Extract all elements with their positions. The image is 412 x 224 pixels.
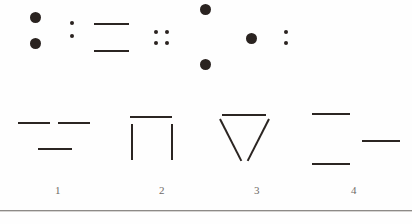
horizontal-bar	[222, 114, 266, 116]
options-row: 1 2 3 4	[0, 100, 412, 200]
small-dot	[284, 41, 288, 45]
large-dot	[246, 33, 257, 44]
option-4-art	[304, 100, 404, 172]
small-dot	[165, 41, 169, 45]
vertical-bar	[131, 124, 133, 160]
stimulus-group-two-large-dots	[20, 0, 60, 96]
stimulus-group-four-small-dots	[152, 0, 180, 96]
horizontal-bar	[94, 50, 129, 52]
horizontal-bar	[38, 148, 72, 150]
horizontal-bar	[58, 122, 90, 124]
option-3-art	[207, 100, 307, 172]
horizontal-bar	[312, 113, 350, 115]
small-dot	[154, 41, 158, 45]
stimulus-row	[0, 0, 412, 96]
vertical-bar	[171, 124, 173, 160]
horizontal-bar	[362, 140, 400, 142]
large-dot	[30, 12, 41, 23]
stimulus-group-small-dot-pair	[282, 0, 302, 96]
horizontal-bar	[94, 23, 129, 25]
diagonal-bar-left	[219, 119, 242, 162]
small-dot	[165, 30, 169, 34]
large-dot	[30, 38, 41, 49]
option-4[interactable]: 4	[304, 100, 404, 200]
option-1-art	[8, 100, 108, 172]
option-2-art	[112, 100, 212, 172]
option-2-label: 2	[112, 184, 212, 196]
stimulus-group-spaced-large-dots	[196, 0, 222, 96]
footer-divider-shadow	[0, 211, 412, 212]
stimulus-group-small-dot-pair	[62, 0, 86, 96]
option-2[interactable]: 2	[112, 100, 212, 200]
horizontal-bar	[312, 163, 350, 165]
horizontal-bar	[130, 116, 172, 118]
small-dot	[70, 21, 74, 25]
stimulus-group-two-bars	[94, 0, 134, 96]
option-1[interactable]: 1	[8, 100, 108, 200]
option-4-label: 4	[304, 184, 404, 196]
large-dot	[200, 4, 211, 15]
small-dot	[154, 30, 158, 34]
small-dot	[284, 30, 288, 34]
large-dot	[200, 59, 211, 70]
horizontal-bar	[18, 122, 50, 124]
option-3[interactable]: 3	[207, 100, 307, 200]
diagonal-bar-right	[247, 119, 270, 162]
option-1-label: 1	[8, 184, 108, 196]
figure-root: 1 2 3 4	[0, 0, 412, 224]
option-3-label: 3	[207, 184, 307, 196]
stimulus-group-single-large-dot	[244, 0, 264, 96]
small-dot	[70, 34, 74, 38]
